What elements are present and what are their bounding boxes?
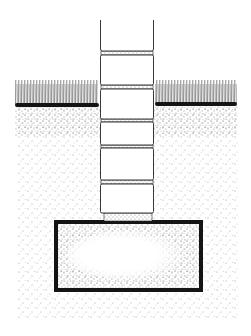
- mortar-joint: [104, 213, 152, 221]
- concrete-footing: [56, 222, 201, 290]
- topsoil-right: [154, 106, 237, 136]
- ground-line-left: [15, 103, 99, 107]
- foundation-diagram: [0, 0, 251, 336]
- block: [101, 148, 154, 180]
- block: [101, 89, 154, 119]
- mortar-joint: [101, 85, 153, 89]
- grass-left: [15, 78, 99, 107]
- block: [101, 122, 154, 145]
- grass-right: [155, 80, 237, 106]
- block: [101, 55, 154, 85]
- topsoil-left: [15, 106, 100, 136]
- ground-line-right: [155, 102, 237, 106]
- block: [101, 184, 154, 213]
- mortar-joint: [101, 180, 153, 184]
- block-wall: [101, 20, 154, 221]
- mortar-joint: [101, 51, 153, 55]
- block-top: [101, 20, 154, 51]
